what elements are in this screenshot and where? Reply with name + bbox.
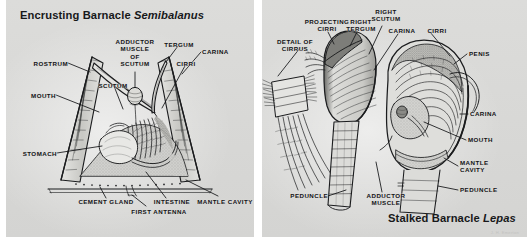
panel-stalked-barnacle: DETAIL OF CIRRUS PROJECTING CIRRI RIGHT … — [262, 0, 527, 237]
right-title-genus: Lepas — [483, 212, 516, 224]
label-tergum: TERGUM — [158, 41, 200, 48]
label-line: TERGUM — [338, 25, 384, 32]
illustrator-signature: J. H. Emerton — [491, 230, 519, 235]
label-line: SCUTUM — [112, 60, 158, 67]
label-adductor-muscle: ADDUCTOR MUSCLE — [360, 192, 412, 207]
label-line: CIRRUS — [264, 45, 326, 52]
left-title-genus: Semibalanus — [134, 9, 204, 21]
figure-canvas: ROSTRUM MOUTH STOMACH ADDUCTOR MUSCLE OF… — [0, 0, 527, 237]
label-carina: CARINA — [202, 48, 248, 55]
label-mantle-cavity: MANTLE CAVITY — [460, 159, 508, 174]
label-line: CAVITY — [460, 166, 508, 173]
label-peduncle-right: PEDUNCLE — [460, 186, 510, 193]
label-carina-upper: CARINA — [380, 27, 424, 34]
label-mouth: MOUTH — [468, 136, 510, 143]
label-penis: PENIS — [469, 50, 509, 57]
label-adductor-muscle-of-scutum: ADDUCTOR MUSCLE OF SCUTUM — [112, 38, 158, 68]
label-line: MUSCLE — [112, 45, 158, 52]
right-panel-title: Stalked Barnacle Lepas — [388, 212, 516, 224]
label-first-antenna: FIRST ANTENNA — [117, 208, 201, 215]
left-panel-title: Encrusting Barnacle Semibalanus — [20, 9, 204, 21]
label-rostrum: ROSTRUM — [20, 60, 68, 67]
label-line: SCUTUM — [362, 15, 410, 22]
label-cirri: CIRRI — [169, 60, 203, 67]
label-mouth: MOUTH — [16, 92, 56, 99]
panel-encrusting-barnacle: ROSTRUM MOUTH STOMACH ADDUCTOR MUSCLE OF… — [6, 0, 254, 237]
label-intestine: INTESTINE — [141, 198, 203, 205]
label-line: MUSCLE — [360, 199, 412, 206]
right-title-prefix: Stalked Barnacle — [388, 212, 483, 224]
label-right-scutum: RIGHT SCUTUM — [362, 8, 410, 23]
label-cement-gland: CEMENT GLAND — [68, 198, 144, 205]
label-stomach: STOMACH — [10, 150, 57, 157]
label-carina-right: CARINA — [470, 110, 514, 117]
left-title-prefix: Encrusting Barnacle — [20, 9, 134, 21]
label-cirri: CIRRI — [420, 27, 454, 34]
label-detail-of-cirrus: DETAIL OF CIRRUS — [264, 38, 326, 53]
label-peduncle-left: PEDUNCLE — [278, 192, 328, 199]
label-scutum: SCUTUM — [92, 82, 134, 89]
label-mantle-cavity: MANTLE CAVITY — [196, 198, 254, 205]
